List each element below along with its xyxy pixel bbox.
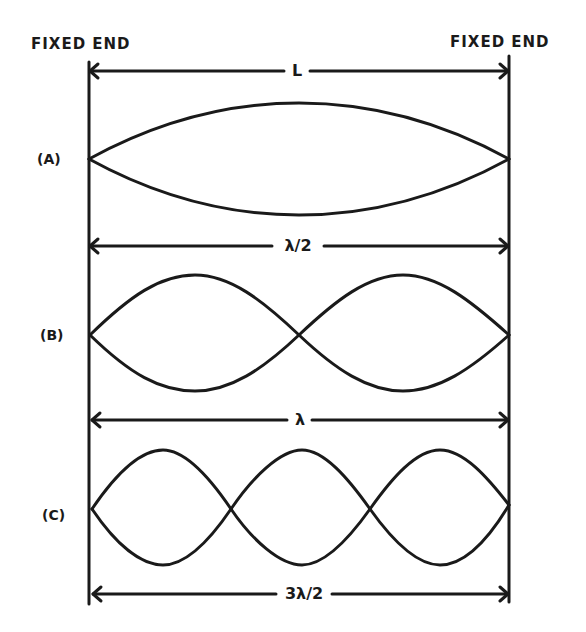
mode-a-dimension-label: λ/2 [280, 238, 315, 254]
standing-waves-diagram [0, 0, 586, 632]
mode-c-dimension-label: 3λ/2 [281, 586, 327, 602]
mode-b-dimension-label: λ [291, 412, 309, 428]
mode-b-label: (B) [40, 328, 63, 342]
mode-a-waveform [89, 103, 509, 215]
mode-b-waveform [90, 275, 509, 391]
mode-a-label: (A) [37, 152, 61, 166]
length-label: L [288, 63, 306, 79]
left-fixed-end-label: FIXED END [31, 37, 131, 52]
mode-c-waveform [92, 450, 509, 565]
mode-c-label: (C) [42, 508, 65, 522]
right-fixed-end-label: FIXED END [450, 35, 550, 50]
